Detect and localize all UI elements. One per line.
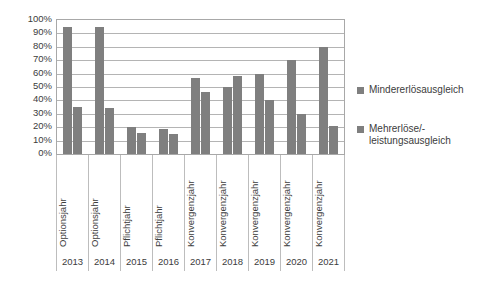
y-axis-tick: 20% (33, 121, 52, 131)
category-label: Konvergenzjahr (249, 180, 260, 247)
year-label: 2014 (89, 251, 121, 271)
bar-group (57, 20, 89, 154)
category-label: Optionsjahr (89, 198, 100, 247)
y-axis-tick: 90% (33, 27, 52, 37)
bar-group (121, 20, 153, 154)
y-axis: 100%90%80%70%60%50%40%30%20%10%0% (0, 14, 52, 156)
bar (265, 100, 274, 154)
legend-label: Mehrerlöse/- leistungsausgleich (369, 123, 451, 148)
year-label: 2018 (217, 251, 249, 271)
bar-group (312, 20, 344, 154)
y-axis-tick: 80% (33, 41, 52, 51)
category-cell: Konvergenzjahr (249, 155, 281, 251)
y-axis-tick: 100% (28, 14, 52, 24)
y-axis-tick: 70% (33, 54, 52, 64)
category-label: Optionsjahr (57, 198, 68, 247)
y-axis-tick: 50% (33, 81, 52, 91)
category-cell: Pflichtjahr (153, 155, 185, 251)
bar-chart: 100%90%80%70%60%50%40%30%20%10%0% Option… (0, 0, 503, 287)
category-label: Pflichtjahr (153, 205, 164, 247)
bar (255, 74, 264, 154)
year-label: 2019 (249, 251, 281, 271)
bar (329, 126, 338, 154)
year-label: 2020 (281, 251, 313, 271)
bar (223, 87, 232, 154)
bar-group (248, 20, 280, 154)
category-cell: Konvergenzjahr (313, 155, 345, 251)
bar-group (153, 20, 185, 154)
legend-swatch-icon (357, 126, 364, 133)
y-axis-tick: 60% (33, 68, 52, 78)
legend-entry[interactable]: Mehrerlöse/- leistungsausgleich (357, 123, 503, 148)
y-axis-tick: 30% (33, 108, 52, 118)
bar-group (280, 20, 312, 154)
legend-swatch-icon (357, 87, 364, 94)
year-label: 2017 (185, 251, 217, 271)
bar (63, 27, 72, 154)
year-label: 2015 (121, 251, 153, 271)
bar (169, 134, 178, 154)
bar (137, 133, 146, 154)
category-cell: Konvergenzjahr (217, 155, 249, 251)
bar (73, 107, 82, 154)
bar (127, 127, 136, 154)
bar (191, 78, 200, 154)
bar (105, 108, 114, 154)
category-cell: Pflichtjahr (121, 155, 153, 251)
year-label: 2021 (313, 251, 345, 271)
legend-entry[interactable]: Mindererlösausgleich (357, 84, 503, 97)
y-axis-tick: 0% (38, 148, 52, 158)
year-label: 2016 (153, 251, 185, 271)
category-label: Konvergenzjahr (185, 180, 196, 247)
category-label: Konvergenzjahr (217, 180, 228, 247)
category-cell: Konvergenzjahr (185, 155, 217, 251)
bar-group (185, 20, 217, 154)
category-cell: Optionsjahr (57, 155, 89, 251)
category-label-row: OptionsjahrOptionsjahrPflichtjahrPflicht… (56, 155, 345, 251)
bar (287, 60, 296, 154)
bar-group (216, 20, 248, 154)
bar (159, 129, 168, 154)
bar-group (89, 20, 121, 154)
bar (297, 114, 306, 154)
year-label-row: 201320142015201620172018201920202021 (56, 251, 345, 271)
y-axis-tick: 10% (33, 135, 52, 145)
y-axis-tick: 40% (33, 94, 52, 104)
year-label: 2013 (57, 251, 89, 271)
bar (233, 76, 242, 154)
bar (201, 92, 210, 154)
chart-legend: MindererlösausgleichMehrerlöse/- leistun… (357, 84, 503, 174)
category-label: Konvergenzjahr (313, 180, 324, 247)
category-cell: Konvergenzjahr (281, 155, 313, 251)
legend-label: Mindererlösausgleich (369, 84, 464, 97)
bar-groups (57, 20, 344, 154)
category-label: Konvergenzjahr (281, 180, 292, 247)
category-label: Pflichtjahr (121, 205, 132, 247)
bar (319, 47, 328, 154)
bar (95, 27, 104, 154)
plot-area (56, 19, 345, 155)
category-cell: Optionsjahr (89, 155, 121, 251)
